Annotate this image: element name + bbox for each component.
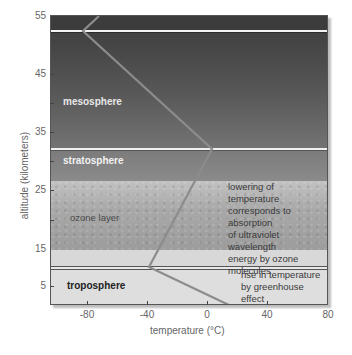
y-tick-mark bbox=[50, 190, 54, 191]
x-tick-mark bbox=[87, 301, 88, 305]
x-tick-label: -80 bbox=[72, 309, 102, 320]
x-tick-label: -40 bbox=[132, 309, 162, 320]
y-tick-label: 15 bbox=[22, 243, 46, 254]
y-minor-tick bbox=[50, 220, 54, 221]
x-tick-mark bbox=[207, 301, 208, 305]
y-tick-label: 45 bbox=[22, 68, 46, 79]
temperature-curve bbox=[51, 16, 328, 305]
y-minor-tick bbox=[50, 44, 54, 45]
x-tick-label: 0 bbox=[192, 309, 222, 320]
y-tick-label: 55 bbox=[22, 10, 46, 21]
y-tick-label: 5 bbox=[22, 280, 46, 291]
x-axis-label: temperature (°C) bbox=[150, 325, 225, 336]
y-tick-mark bbox=[50, 132, 54, 133]
plot-area: mesosphere stratosphere ozone layer trop… bbox=[50, 15, 328, 305]
x-tick-mark bbox=[147, 301, 148, 305]
y-tick-mark bbox=[50, 286, 54, 287]
y-minor-tick bbox=[50, 103, 54, 104]
x-tick-label: 80 bbox=[313, 309, 343, 320]
x-tick-mark bbox=[267, 301, 268, 305]
y-axis-label: altitude (kilometers) bbox=[19, 121, 30, 231]
x-tick-label: 40 bbox=[252, 309, 282, 320]
y-tick-mark bbox=[50, 74, 54, 75]
y-minor-tick bbox=[50, 161, 54, 162]
